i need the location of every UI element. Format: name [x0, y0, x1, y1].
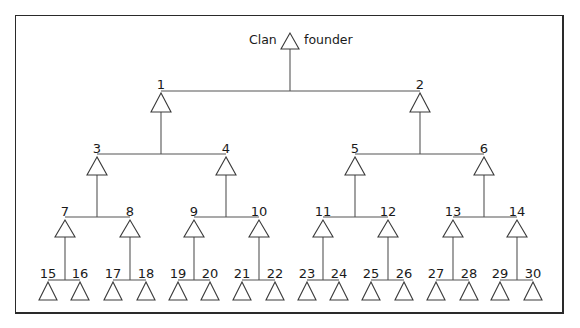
- node-label: 21: [234, 267, 251, 280]
- node-label: 30: [525, 267, 542, 280]
- male-triangle-icon: [120, 220, 140, 237]
- node-label: 22: [267, 267, 284, 280]
- node-label: 2: [416, 78, 424, 91]
- founder-male-triangle-icon: [281, 33, 299, 49]
- male-triangle-icon: [184, 220, 204, 237]
- male-triangle-icon: [249, 220, 269, 237]
- male-triangle-icon: [71, 282, 89, 300]
- founder-left-label: Clan: [249, 33, 277, 46]
- male-triangle-icon: [395, 282, 413, 300]
- male-triangle-icon: [216, 157, 236, 175]
- male-triangle-icon: [378, 220, 398, 237]
- node-label: 17: [105, 267, 122, 280]
- node-label: 20: [202, 267, 219, 280]
- male-triangle-icon: [151, 93, 171, 112]
- node-label: 8: [126, 205, 134, 218]
- node-label: 6: [480, 142, 488, 155]
- node-label: 10: [251, 205, 268, 218]
- male-triangle-icon: [474, 157, 494, 175]
- male-triangle-icon: [233, 282, 251, 300]
- male-triangle-icon: [39, 282, 57, 300]
- male-triangle-icon: [460, 282, 478, 300]
- node-label: 14: [509, 205, 526, 218]
- node-label: 15: [40, 267, 57, 280]
- node-label: 9: [190, 205, 198, 218]
- node-label: 4: [222, 142, 230, 155]
- male-triangle-icon: [507, 220, 527, 237]
- node-label: 13: [445, 205, 462, 218]
- male-triangle-icon: [524, 282, 542, 300]
- node-label: 24: [331, 267, 348, 280]
- male-triangle-icon: [443, 220, 463, 237]
- male-triangle-icon: [266, 282, 284, 300]
- node-label: 25: [363, 267, 380, 280]
- node-label: 3: [93, 142, 101, 155]
- male-triangle-icon: [55, 220, 75, 237]
- male-triangle-icon: [137, 282, 155, 300]
- male-triangle-icon: [104, 282, 122, 300]
- male-triangle-icon: [201, 282, 219, 300]
- male-triangle-icon: [491, 282, 509, 300]
- node-label: 1: [157, 78, 165, 91]
- node-label: 26: [396, 267, 413, 280]
- male-triangle-icon: [169, 282, 187, 300]
- male-triangle-icon: [410, 93, 430, 112]
- founder-right-label: founder: [304, 33, 353, 46]
- male-triangle-icon: [362, 282, 380, 300]
- male-triangle-icon: [313, 220, 333, 237]
- node-label: 12: [380, 205, 397, 218]
- male-triangle-icon: [345, 157, 365, 175]
- node-label: 16: [72, 267, 89, 280]
- node-label: 7: [61, 205, 69, 218]
- node-label: 11: [315, 205, 332, 218]
- male-triangle-icon: [427, 282, 445, 300]
- node-label: 19: [170, 267, 187, 280]
- node-label: 28: [461, 267, 478, 280]
- node-label: 23: [299, 267, 316, 280]
- node-label: 18: [138, 267, 155, 280]
- node-label: 27: [428, 267, 445, 280]
- node-label: 29: [492, 267, 509, 280]
- male-triangle-icon: [87, 157, 107, 175]
- node-label: 5: [351, 142, 359, 155]
- male-triangle-icon: [330, 282, 348, 300]
- male-triangle-icon: [298, 282, 316, 300]
